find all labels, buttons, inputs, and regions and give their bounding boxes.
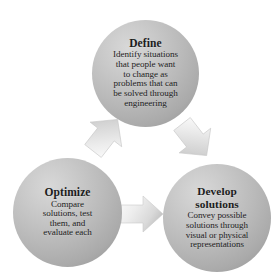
cycle-node-define-body: Identify situationsthat people wantto ch… [113, 50, 178, 108]
cycle-node-develop-solutions[interactable]: Develop solutions Convey possiblesolutio… [163, 164, 271, 272]
cycle-node-define-heading: Define [129, 38, 162, 50]
arrow-define-to-develop [166, 112, 222, 168]
cycle-node-define[interactable]: Define Identify situationsthat people wa… [92, 20, 199, 127]
cycle-node-develop-solutions-body: Convey possiblesolutions throughvisual o… [186, 211, 249, 249]
cycle-node-develop-solutions-heading-line1: Develop [197, 186, 237, 198]
cycle-node-develop-solutions-heading-line2: solutions [195, 199, 239, 211]
arrow-optimize-to-develop [121, 196, 163, 232]
cycle-node-optimize[interactable]: Optimize Comparesolutions, testthem, and… [13, 158, 122, 267]
cycle-node-optimize-body: Comparesolutions, testthem, andevaluate … [43, 200, 92, 239]
engineering-design-cycle-diagram: Define Identify situationsthat people wa… [0, 0, 277, 275]
cycle-node-optimize-heading: Optimize [44, 187, 90, 199]
